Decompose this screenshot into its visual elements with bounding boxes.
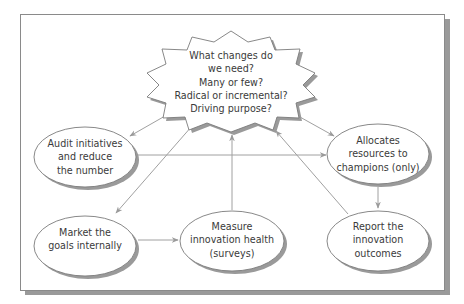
measure-line-2: innovation health — [190, 233, 274, 246]
allocates-line-3: champions (only) — [336, 161, 419, 174]
node-report-label: Report the innovation outcomes — [353, 220, 404, 260]
node-measure-label: Measure innovation health (surveys) — [190, 220, 274, 260]
measure-line-3: (surveys) — [190, 247, 274, 260]
audit-line-2: and reduce — [48, 150, 123, 163]
report-line-2: innovation — [353, 233, 404, 246]
report-line-3: outcomes — [353, 247, 404, 260]
central-line-4: Radical or incremental? — [174, 89, 287, 102]
node-market-label: Market the goals internally — [48, 226, 122, 253]
audit-line-1: Audit initiatives — [48, 137, 123, 150]
central-line-2: we need? — [174, 62, 287, 75]
measure-line-1: Measure — [190, 220, 274, 233]
node-allocates-label: Allocates resources to champions (only) — [336, 134, 419, 174]
allocates-line-1: Allocates — [336, 134, 419, 147]
central-line-1: What changes do — [174, 49, 287, 62]
central-line-5: Driving purpose? — [174, 102, 287, 115]
market-line-1: Market the — [48, 226, 122, 239]
central-question-label: What changes do we need? Many or few? Ra… — [174, 49, 287, 115]
central-line-3: Many or few? — [174, 75, 287, 88]
report-line-1: Report the — [353, 220, 404, 233]
audit-line-3: the number — [48, 164, 123, 177]
market-line-2: goals internally — [48, 239, 122, 252]
node-audit-label: Audit initiatives and reduce the number — [48, 137, 123, 177]
allocates-line-2: resources to — [336, 147, 419, 160]
